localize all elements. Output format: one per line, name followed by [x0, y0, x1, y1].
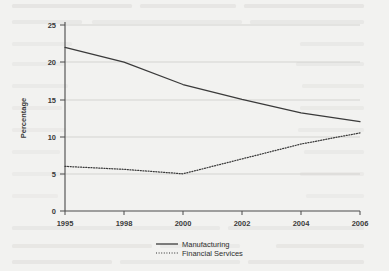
- y-tick-marks: [60, 25, 65, 211]
- x-tick-label-2004: 2004: [293, 219, 311, 228]
- x-tick-label-2006: 2006: [352, 219, 369, 228]
- y-tick-label-0: 0: [52, 207, 56, 216]
- x-tick-label-2000: 2000: [175, 219, 192, 228]
- chart-legend: Manufacturing Financial Services: [156, 240, 243, 258]
- plot-area-svg: 25 20 15 10 5 0 Percentage 1995 1998 200…: [0, 0, 389, 271]
- x-tick-label-2002: 2002: [234, 219, 251, 228]
- y-tick-label-10: 10: [48, 133, 56, 142]
- gridlines: [65, 25, 360, 174]
- legend-label-financial-services: Financial Services: [182, 249, 243, 258]
- y-axis-title: Percentage: [19, 98, 28, 138]
- line-chart: 25 20 15 10 5 0 Percentage 1995 1998 200…: [0, 0, 389, 271]
- y-tick-label-5: 5: [52, 170, 56, 179]
- y-tick-label-20: 20: [48, 58, 56, 67]
- x-tick-label-1995: 1995: [57, 219, 74, 228]
- series-line-financial-services: [65, 133, 360, 174]
- legend-label-manufacturing: Manufacturing: [182, 240, 230, 249]
- series-line-manufacturing: [65, 47, 360, 121]
- y-tick-label-15: 15: [48, 96, 56, 105]
- x-tick-label-1998: 1998: [116, 219, 133, 228]
- x-tick-marks: [65, 211, 360, 215]
- y-tick-label-25: 25: [48, 21, 56, 30]
